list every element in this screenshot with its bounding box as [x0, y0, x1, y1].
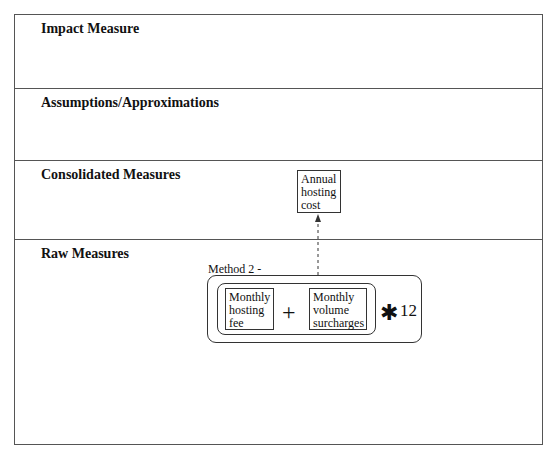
monthly-volume-surcharges-node: Monthly volume surcharges: [309, 288, 367, 330]
monthly-hosting-fee-node: Monthly hosting fee: [225, 288, 274, 330]
plus-operator: +: [282, 300, 296, 324]
multiply-icon: ✱: [380, 301, 398, 325]
dashed-arrow: [0, 0, 552, 455]
multiplier-value: 12: [400, 301, 417, 321]
